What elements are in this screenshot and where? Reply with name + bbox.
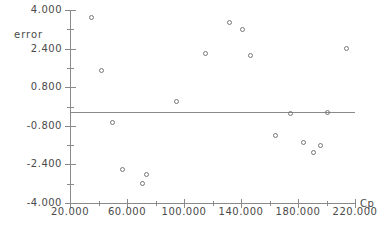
data-point <box>227 20 232 25</box>
data-point <box>120 167 125 172</box>
data-point <box>325 110 330 115</box>
x-tick-minor <box>270 201 271 206</box>
x-tick-label: 20.000 <box>44 206 96 217</box>
x-tick-minor <box>156 201 157 206</box>
data-point <box>99 68 104 73</box>
data-point <box>248 53 253 58</box>
data-point <box>203 51 208 56</box>
data-point <box>311 150 316 155</box>
y-tick-major <box>65 164 76 165</box>
x-tick-label: 100.000 <box>158 206 210 217</box>
data-point <box>344 46 349 51</box>
zero-reference-line <box>70 112 355 113</box>
x-tick-minor <box>327 201 328 206</box>
y-tick-major <box>65 87 76 88</box>
y-tick-minor <box>67 107 74 108</box>
y-tick-major <box>65 126 76 127</box>
data-point <box>318 143 323 148</box>
data-point <box>89 15 94 20</box>
y-tick-label: 2.400 <box>31 43 62 54</box>
data-point <box>174 99 179 104</box>
y-tick-minor <box>67 29 74 30</box>
y-tick-minor <box>67 68 74 69</box>
y-tick-label: 0.800 <box>31 81 62 92</box>
x-tick-minor <box>213 201 214 206</box>
y-tick-major <box>65 49 76 50</box>
data-point <box>144 172 149 177</box>
x-tick-label: 140.000 <box>215 206 267 217</box>
y-tick-minor <box>67 145 74 146</box>
data-point <box>110 120 115 125</box>
data-point <box>240 27 245 32</box>
x-tick-minor <box>99 201 100 206</box>
x-tick-label: 180.000 <box>272 206 324 217</box>
x-tick-label: 60.000 <box>101 206 153 217</box>
data-point <box>273 133 278 138</box>
y-tick-label: -2.400 <box>27 158 62 169</box>
y-tick-label: 4.000 <box>31 4 62 15</box>
scatter-plot: error Cp 4.0002.4000.800-0.800-2.400-4.0… <box>0 0 388 235</box>
y-axis-title: error <box>14 29 43 40</box>
data-point <box>301 140 306 145</box>
y-tick-major <box>65 10 76 11</box>
data-point <box>140 181 145 186</box>
y-tick-minor <box>67 184 74 185</box>
data-point <box>288 111 293 116</box>
y-tick-label: -0.800 <box>27 120 62 131</box>
x-tick-label: 220.000 <box>329 206 381 217</box>
